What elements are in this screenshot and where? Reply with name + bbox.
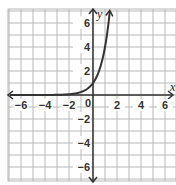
- origin-label: 0: [85, 97, 91, 109]
- y-tick-label: 2: [84, 65, 90, 77]
- x-axis-label: x: [169, 80, 176, 94]
- x-tick-label: 6: [162, 99, 168, 111]
- y-tick-label: 4: [84, 41, 91, 53]
- exponential-graph: −6−4−2246642−2−4−6 y x 0: [0, 0, 176, 185]
- x-tick-label: −2: [63, 99, 76, 111]
- y-tick-label: −4: [77, 137, 90, 149]
- x-tick-label: 4: [138, 99, 145, 111]
- y-axis-label: y: [96, 7, 103, 21]
- x-tick-label: −6: [15, 99, 28, 111]
- y-tick-label: −6: [77, 161, 90, 173]
- exponential-curve: [10, 11, 110, 95]
- y-tick-label: −2: [77, 113, 90, 125]
- y-tick-label: 6: [84, 17, 90, 29]
- x-tick-label: −4: [39, 99, 52, 111]
- x-tick-label: 2: [114, 99, 120, 111]
